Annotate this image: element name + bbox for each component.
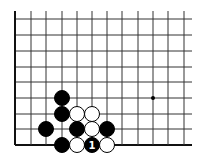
star-points [151,96,155,100]
white-stone [70,107,85,122]
white-stone [100,138,115,153]
star-point [151,96,155,100]
white-stone [70,138,85,153]
black-stone: 1 [85,138,100,153]
black-stone [70,122,85,137]
black-stone [55,107,70,122]
black-stone [55,138,70,153]
black-stone [55,91,70,106]
go-board-diagram: 1 [0,0,206,167]
black-stone [100,122,115,137]
white-stone [85,107,100,122]
move-number-label: 1 [89,140,96,151]
black-stone [39,122,54,137]
white-stone [85,122,100,137]
